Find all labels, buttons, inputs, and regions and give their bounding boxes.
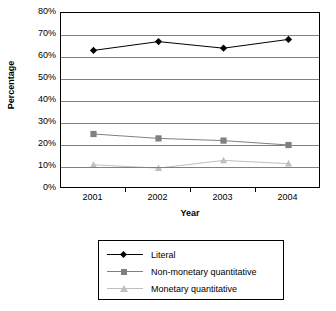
gridline xyxy=(61,101,319,102)
x-axis-tick-labels: 2001200220032004 xyxy=(60,192,320,206)
y-tick-label: 60% xyxy=(22,51,56,60)
x-tick-label: 2003 xyxy=(193,192,253,202)
y-axis-title: Percentage xyxy=(6,45,16,125)
x-tick-label: 2004 xyxy=(258,192,318,202)
x-tick-label: 2002 xyxy=(128,192,188,202)
data-point-marker xyxy=(285,36,292,43)
data-point-marker xyxy=(90,131,96,137)
y-tick-label: 0% xyxy=(22,183,56,192)
triangle-marker-icon xyxy=(120,285,128,292)
y-tick-label: 30% xyxy=(22,117,56,126)
y-tick-label: 70% xyxy=(22,29,56,38)
data-point-marker xyxy=(155,38,162,45)
legend-label: Literal xyxy=(145,250,176,260)
series-line xyxy=(94,39,289,50)
data-point-marker xyxy=(90,47,97,54)
x-tick-label: 2001 xyxy=(63,192,123,202)
x-axis-tick xyxy=(190,188,191,192)
legend-swatch xyxy=(105,282,145,296)
gridline xyxy=(61,145,319,146)
series-line xyxy=(94,134,289,145)
x-axis-tick xyxy=(125,188,126,192)
y-tick-label: 10% xyxy=(22,161,56,170)
square-marker-icon xyxy=(121,269,127,275)
y-tick-label: 80% xyxy=(22,7,56,16)
line-chart: Percentage 0%10%20%30%40%50%60%70%80% 20… xyxy=(0,0,336,311)
data-point-marker xyxy=(155,135,161,141)
plot-area xyxy=(60,12,320,188)
legend-label: Monetary quantitative xyxy=(145,284,237,294)
y-tick-label: 40% xyxy=(22,95,56,104)
y-tick-label: 50% xyxy=(22,73,56,82)
gridline xyxy=(61,35,319,36)
legend-label: Non-monetary quantitative xyxy=(145,267,257,277)
legend-item[interactable]: Literal xyxy=(105,246,176,264)
chart-legend: LiteralNon-monetary quantitativeMonetary… xyxy=(98,240,284,300)
gridline xyxy=(61,167,319,168)
legend-swatch xyxy=(105,265,145,279)
data-point-marker xyxy=(220,138,226,144)
legend-item[interactable]: Non-monetary quantitative xyxy=(105,263,257,281)
gridline xyxy=(61,123,319,124)
y-tick-label: 20% xyxy=(22,139,56,148)
diamond-marker-icon xyxy=(120,251,127,258)
x-axis-title: Year xyxy=(60,208,320,218)
y-axis-tick-labels: 0%10%20%30%40%50%60%70%80% xyxy=(22,0,56,311)
legend-item[interactable]: Monetary quantitative xyxy=(105,280,237,298)
gridline xyxy=(61,79,319,80)
gridline xyxy=(61,57,319,58)
data-point-marker xyxy=(220,45,227,52)
legend-swatch xyxy=(105,248,145,262)
x-axis-tick xyxy=(255,188,256,192)
